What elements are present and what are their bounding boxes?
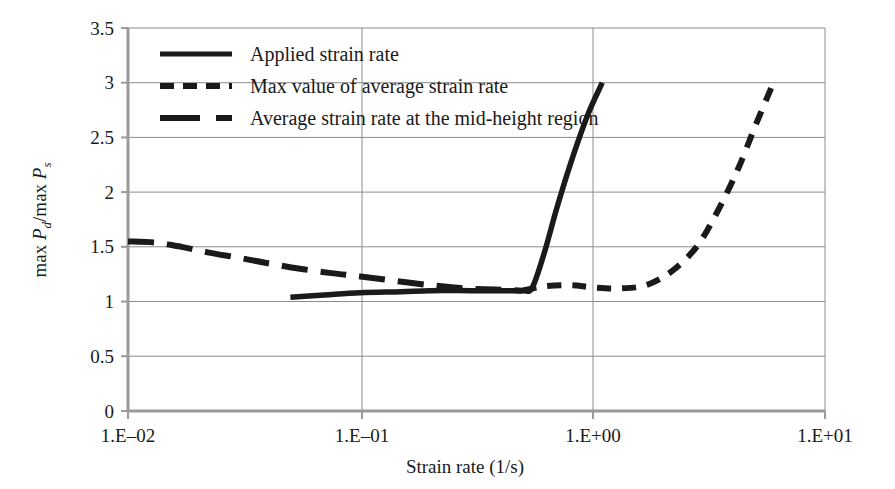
x-tick-label-1e-01: 1.E–01 [335, 425, 389, 446]
y-tick-label-2: 2 [105, 182, 115, 203]
y-tick-label-3: 3 [105, 72, 115, 93]
x-axis-title: Strain rate (1/s) [406, 456, 524, 478]
legend-label-max-value-average-strain-rate: Max value of average strain rate [250, 75, 508, 98]
y-tick-label-3.5: 3.5 [90, 18, 114, 39]
legend-label-average-strain-rate-mid-height: Average strain rate at the mid-height re… [250, 107, 598, 130]
y-axis-title-sub-s: s [39, 163, 54, 168]
y-axis-title-slash: /max [29, 179, 50, 222]
x-tick-label-1e00: 1.E+00 [565, 425, 621, 446]
y-tick-label-1: 1 [105, 291, 115, 312]
y-tick-label-2.5: 2.5 [90, 127, 114, 148]
x-tick-label-1e01: 1.E+01 [797, 425, 853, 446]
legend-label-applied-strain-rate: Applied strain rate [250, 43, 399, 66]
y-axis-title-pd: P [29, 228, 50, 241]
y-axis-title-ps: P [29, 167, 50, 180]
y-axis-title-max1: max [29, 240, 50, 277]
figure-container: 0 0.5 1 1.5 2 2.5 3 3.5 1.E–02 1.E–01 1.… [0, 0, 895, 489]
y-tick-label-0: 0 [105, 401, 115, 422]
x-tick-label-1e-02: 1.E–02 [101, 425, 155, 446]
y-tick-label-0.5: 0.5 [90, 346, 114, 367]
y-tick-label-1.5: 1.5 [90, 236, 114, 257]
chart-canvas: 0 0.5 1 1.5 2 2.5 3 3.5 1.E–02 1.E–01 1.… [0, 0, 895, 489]
